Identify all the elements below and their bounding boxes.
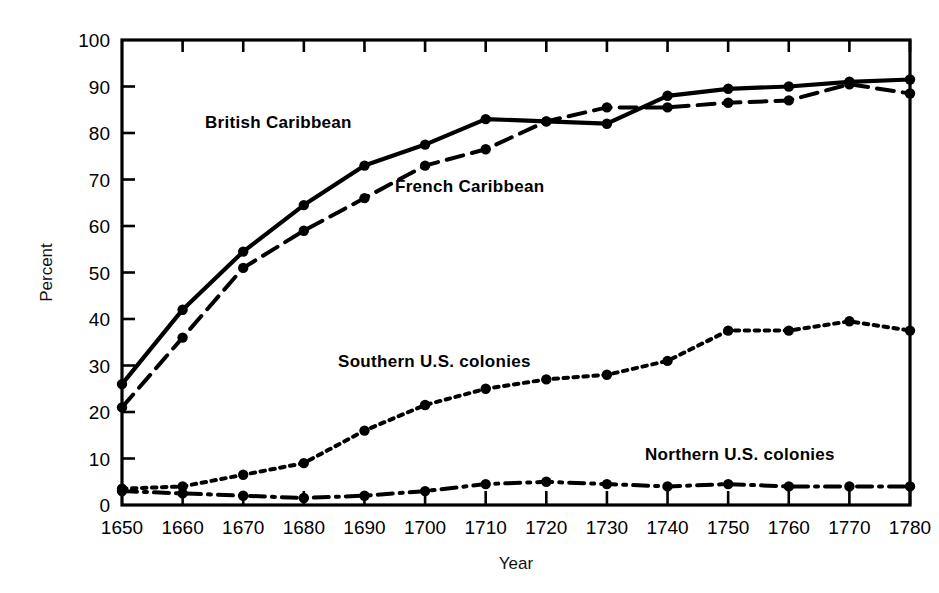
x-tick-label-1740: 1740 <box>646 517 688 538</box>
data-point-northern-u-s-colonies-1730 <box>602 479 612 489</box>
data-point-british-caribbean-1700 <box>420 139 430 149</box>
data-point-southern-u-s-colonies-1740 <box>662 356 672 366</box>
y-tick-label-100: 100 <box>78 30 110 51</box>
data-point-french-caribbean-1720 <box>541 116 551 126</box>
data-point-southern-u-s-colonies-1770 <box>844 316 854 326</box>
y-tick-label-30: 30 <box>89 356 110 377</box>
x-tick-label-1780: 1780 <box>889 517 931 538</box>
data-point-southern-u-s-colonies-1780 <box>905 325 915 335</box>
x-tick-label-1660: 1660 <box>161 517 203 538</box>
data-point-northern-u-s-colonies-1650 <box>117 486 127 496</box>
data-point-northern-u-s-colonies-1710 <box>481 479 491 489</box>
data-point-southern-u-s-colonies-1710 <box>481 384 491 394</box>
data-point-british-caribbean-1660 <box>177 305 187 315</box>
x-tick-label-1730: 1730 <box>586 517 628 538</box>
data-point-french-caribbean-1660 <box>177 332 187 342</box>
x-tick-label-1680: 1680 <box>283 517 325 538</box>
x-tick-label-1770: 1770 <box>828 517 870 538</box>
data-point-french-caribbean-1710 <box>481 144 491 154</box>
data-point-northern-u-s-colonies-1760 <box>784 481 794 491</box>
data-point-british-caribbean-1650 <box>117 379 127 389</box>
data-point-french-caribbean-1670 <box>238 263 248 273</box>
data-point-southern-u-s-colonies-1670 <box>238 470 248 480</box>
data-point-british-caribbean-1740 <box>662 91 672 101</box>
data-point-british-caribbean-1780 <box>905 74 915 84</box>
y-axis-title: Percent <box>37 243 56 302</box>
x-tick-label-1670: 1670 <box>222 517 264 538</box>
y-tick-label-80: 80 <box>89 123 110 144</box>
data-point-northern-u-s-colonies-1670 <box>238 491 248 501</box>
y-tick-label-50: 50 <box>89 263 110 284</box>
data-point-french-caribbean-1690 <box>359 193 369 203</box>
series-label-british-caribbean: British Caribbean <box>205 113 352 132</box>
data-point-southern-u-s-colonies-1760 <box>784 325 794 335</box>
data-point-british-caribbean-1690 <box>359 160 369 170</box>
data-point-northern-u-s-colonies-1700 <box>420 486 430 496</box>
data-point-northern-u-s-colonies-1720 <box>541 477 551 487</box>
data-point-northern-u-s-colonies-1690 <box>359 491 369 501</box>
data-point-northern-u-s-colonies-1750 <box>723 479 733 489</box>
y-tick-label-20: 20 <box>89 402 110 423</box>
data-point-french-caribbean-1770 <box>844 79 854 89</box>
chart-canvas: 1650166016701680169017001710172017301740… <box>0 0 939 593</box>
chart-figure: 1650166016701680169017001710172017301740… <box>0 0 939 593</box>
data-point-southern-u-s-colonies-1700 <box>420 400 430 410</box>
x-tick-label-1760: 1760 <box>768 517 810 538</box>
x-tick-label-1650: 1650 <box>101 517 143 538</box>
data-point-northern-u-s-colonies-1740 <box>662 481 672 491</box>
data-point-southern-u-s-colonies-1730 <box>602 370 612 380</box>
data-point-southern-u-s-colonies-1720 <box>541 374 551 384</box>
y-tick-label-40: 40 <box>89 309 110 330</box>
data-point-french-caribbean-1760 <box>784 95 794 105</box>
data-point-southern-u-s-colonies-1680 <box>299 458 309 468</box>
data-point-french-caribbean-1730 <box>602 102 612 112</box>
data-point-british-caribbean-1710 <box>481 114 491 124</box>
data-point-british-caribbean-1760 <box>784 81 794 91</box>
plot-frame <box>122 40 910 505</box>
data-point-french-caribbean-1700 <box>420 160 430 170</box>
y-tick-label-10: 10 <box>89 449 110 470</box>
series-label-southern-u-s-colonies: Southern U.S. colonies <box>338 352 531 371</box>
data-point-british-caribbean-1680 <box>299 200 309 210</box>
data-point-british-caribbean-1730 <box>602 119 612 129</box>
data-point-french-caribbean-1750 <box>723 98 733 108</box>
data-point-southern-u-s-colonies-1690 <box>359 425 369 435</box>
data-point-french-caribbean-1780 <box>905 88 915 98</box>
x-tick-label-1700: 1700 <box>404 517 446 538</box>
data-point-northern-u-s-colonies-1770 <box>844 481 854 491</box>
data-point-northern-u-s-colonies-1660 <box>177 488 187 498</box>
data-point-southern-u-s-colonies-1750 <box>723 325 733 335</box>
x-tick-label-1710: 1710 <box>465 517 507 538</box>
data-point-french-caribbean-1680 <box>299 226 309 236</box>
y-tick-label-60: 60 <box>89 216 110 237</box>
x-tick-label-1690: 1690 <box>343 517 385 538</box>
data-point-french-caribbean-1650 <box>117 402 127 412</box>
x-tick-label-1720: 1720 <box>525 517 567 538</box>
y-tick-label-70: 70 <box>89 170 110 191</box>
x-tick-label-1750: 1750 <box>707 517 749 538</box>
series-label-northern-u-s-colonies: Northern U.S. colonies <box>645 445 835 464</box>
data-point-british-caribbean-1750 <box>723 84 733 94</box>
data-point-british-caribbean-1670 <box>238 246 248 256</box>
x-axis-title: Year <box>499 554 534 573</box>
series-label-french-caribbean: French Caribbean <box>395 177 544 196</box>
data-point-french-caribbean-1740 <box>662 102 672 112</box>
y-tick-label-90: 90 <box>89 77 110 98</box>
data-point-northern-u-s-colonies-1780 <box>905 481 915 491</box>
y-tick-label-0: 0 <box>99 495 110 516</box>
data-point-northern-u-s-colonies-1680 <box>299 493 309 503</box>
